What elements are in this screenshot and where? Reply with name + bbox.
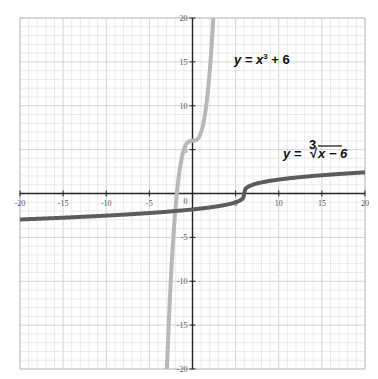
svg-text:y = x3 + 6: y = x3 + 6 <box>233 52 290 67</box>
svg-text:-15: -15 <box>177 321 188 330</box>
svg-text:15: 15 <box>318 199 326 208</box>
svg-text:-5: -5 <box>181 233 188 242</box>
svg-text:20: 20 <box>180 14 188 23</box>
svg-text:y =: y = <box>282 146 302 161</box>
svg-text:10: 10 <box>275 199 283 208</box>
svg-text:0: 0 <box>184 197 188 206</box>
svg-text:-20: -20 <box>177 365 188 374</box>
svg-text:-5: -5 <box>146 199 153 208</box>
chart: -20-15-10-55101520-20-15-10-505101520 y … <box>0 0 378 379</box>
svg-text:-15: -15 <box>58 199 69 208</box>
svg-text:x − 6: x − 6 <box>317 146 348 161</box>
svg-text:√: √ <box>310 146 318 161</box>
svg-text:15: 15 <box>180 58 188 67</box>
svg-text:-10: -10 <box>101 199 112 208</box>
equation-label-cubic: y = x3 + 6 <box>233 52 290 67</box>
svg-text:10: 10 <box>180 102 188 111</box>
svg-text:20: 20 <box>361 199 369 208</box>
svg-text:-20: -20 <box>15 199 26 208</box>
svg-text:-10: -10 <box>177 277 188 286</box>
